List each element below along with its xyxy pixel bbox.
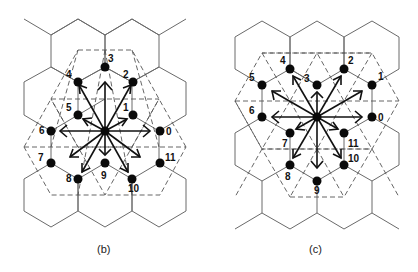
- node-label: 3: [108, 53, 114, 64]
- lattice-node: [129, 111, 138, 120]
- node-label: 10: [348, 153, 360, 164]
- node-label: 4: [66, 69, 72, 80]
- node-label: 6: [39, 125, 45, 136]
- panel-b-center-node: [101, 127, 110, 136]
- lattice-node: [286, 161, 295, 170]
- lattice-node: [340, 129, 349, 138]
- lattice-node: [74, 111, 83, 120]
- node-label: 1: [378, 71, 384, 82]
- node-label: 8: [285, 171, 291, 182]
- node-label: 0: [166, 126, 172, 137]
- node-label: 7: [282, 138, 288, 149]
- lattice-node: [74, 175, 83, 184]
- node-label: 5: [66, 102, 72, 113]
- lattice-node: [258, 81, 267, 90]
- panel-b-caption: (b): [97, 243, 110, 255]
- node-label: 3: [304, 73, 310, 84]
- lattice-node: [313, 81, 322, 90]
- panel-c-diagram: 01234567891011 (c): [235, 21, 399, 255]
- node-label: 0: [378, 112, 384, 123]
- panel-b-nodes: 01234567891011: [38, 53, 176, 194]
- lattice-node: [286, 65, 295, 74]
- node-label: 6: [249, 105, 255, 116]
- lattice-node: [286, 129, 295, 138]
- lattice-node: [47, 159, 56, 168]
- panel-c-caption: (c): [309, 243, 322, 255]
- lattice-node: [258, 113, 267, 122]
- node-label: 11: [348, 138, 359, 149]
- lattice-node: [368, 113, 377, 122]
- node-label: 9: [314, 185, 320, 196]
- node-label: 5: [249, 72, 255, 83]
- node-label: 2: [123, 69, 129, 80]
- node-label: 11: [165, 152, 176, 163]
- node-label: 7: [38, 152, 44, 163]
- node-label: 4: [280, 55, 286, 66]
- lattice-node: [156, 159, 165, 168]
- node-label: 10: [128, 183, 140, 194]
- node-label: 1: [123, 102, 129, 113]
- lattice-node: [101, 159, 110, 168]
- lattice-node: [74, 78, 83, 87]
- lattice-node: [156, 127, 165, 136]
- lattice-node: [129, 78, 138, 87]
- lattice-node: [47, 127, 56, 136]
- hexagonal-lattice-figure: 01234567891011 (b): [0, 0, 418, 272]
- panel-c-center-node: [313, 113, 322, 122]
- node-label: 8: [66, 173, 72, 184]
- panel-b-diagram: 01234567891011 (b): [24, 19, 186, 255]
- node-label: 9: [101, 170, 107, 181]
- lattice-node: [368, 81, 377, 90]
- node-label: 2: [348, 55, 354, 66]
